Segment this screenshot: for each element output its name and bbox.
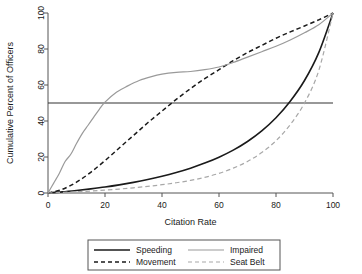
tick-labels: 020406080100020406080100	[36, 6, 340, 210]
legend-label-speeding: Speeding	[136, 245, 172, 255]
y-tick-label: 80	[36, 44, 46, 54]
cumulative-distribution-chart: 020406080100020406080100 Citation RateCu…	[0, 0, 362, 274]
legend-label-impaired: Impaired	[230, 245, 263, 255]
x-tick-label: 60	[214, 200, 224, 210]
x-axis-title: Citation Rate	[164, 217, 216, 227]
x-tick-label: 20	[100, 200, 110, 210]
legend-label-movement: Movement	[136, 257, 176, 267]
chart-figure: 020406080100020406080100 Citation RateCu…	[0, 0, 362, 274]
y-axis-title: Cumulative Percent of Officers	[5, 42, 15, 164]
x-tick-label: 0	[46, 200, 51, 210]
chart-legend: SpeedingMovementImpairedSeat Belt	[88, 240, 280, 270]
x-tick-label: 80	[271, 200, 281, 210]
legend-label-seat-belt: Seat Belt	[230, 257, 265, 267]
x-tick-label: 100	[326, 200, 340, 210]
y-tick-label: 0	[36, 190, 46, 195]
y-tick-label: 40	[36, 116, 46, 126]
x-tick-label: 40	[157, 200, 167, 210]
y-tick-label: 20	[36, 152, 46, 162]
y-tick-label: 60	[36, 80, 46, 90]
axis-titles: Citation RateCumulative Percent of Offic…	[5, 42, 217, 227]
y-tick-label: 100	[36, 6, 46, 20]
